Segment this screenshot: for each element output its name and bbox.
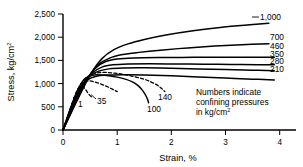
y-tick-label: 1,000 [35,80,56,89]
stress-strain-chart: 0 500 1,000 1,500 2,000 2,500 0 1 2 3 4 … [0,0,303,167]
annotation-line-2: confining pressures [196,97,269,107]
y-axis-tick-labels: 0 500 1,000 1,500 2,000 2,500 [35,10,56,135]
y-tick-label: 2,500 [35,10,56,19]
y-tick-label: 500 [41,103,55,112]
svg-text:Stress, kg/cm2: Stress, kg/cm2 [6,43,16,102]
x-tick-label: 2 [169,138,174,147]
y-tick-label: 2,000 [35,33,56,42]
x-tick-label: 3 [223,138,228,147]
x-axis-tick-labels: 0 1 2 3 4 [61,138,283,147]
x-tick-label: 0 [61,138,66,147]
y-tick-label: 1,500 [35,56,56,65]
annotation-line-3-superscript: 2 [227,107,230,113]
chart-annotation: Numbers indicate confining pressures in … [196,87,269,117]
annotation-line-3: in kg/cm2 [196,107,230,117]
y-axis-title-superscript: 2 [6,43,12,46]
x-axis-ticks [63,130,280,135]
curve-label-1: 1 [78,99,83,109]
curve-layer [63,23,274,130]
x-axis-title: Strain, % [159,153,196,163]
annotation-line-3-base: in kg/cm [196,107,227,117]
y-axis-title: Stress, kg/cm2 [6,43,16,102]
chart-canvas: 0 500 1,000 1,500 2,000 2,500 0 1 2 3 4 … [0,0,303,167]
curve-label-140: 140 [158,92,172,102]
annotation-line-1: Numbers indicate [196,87,262,97]
curve-label-100: 100 [147,104,161,114]
curve-label-35: 35 [97,96,107,106]
curve-label-210: 210 [270,64,284,74]
x-tick-label: 1 [115,138,120,147]
curve-label-1000: 1,000 [260,12,281,22]
y-tick-label: 0 [50,126,55,135]
y-axis-title-base: Stress, kg/cm [6,45,16,101]
x-tick-label: 4 [277,138,282,147]
y-axis-ticks [58,14,63,130]
inline-curve-labels: 1 35 100 140 [74,92,173,114]
